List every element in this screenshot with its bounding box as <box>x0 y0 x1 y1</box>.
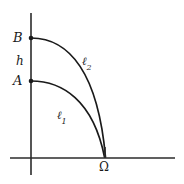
curve-l2 <box>31 38 106 157</box>
label-segment-h: h <box>16 55 24 67</box>
label-point-b: B <box>13 31 23 44</box>
label-curve-l1: ℓ1 <box>57 110 67 124</box>
figure-canvas <box>0 0 184 184</box>
label-point-omega: Ω <box>99 161 109 173</box>
label-curve-l2: ℓ2 <box>82 56 92 70</box>
label-curve-l2-symbol: ℓ <box>82 55 87 68</box>
point-A-marker <box>29 79 34 84</box>
label-point-a: A <box>13 74 22 87</box>
label-curve-l2-subscript: 2 <box>87 63 92 72</box>
geometry-figure: B h A ℓ2 ℓ1 Ω <box>0 0 184 184</box>
label-curve-l1-subscript: 1 <box>62 117 67 126</box>
label-curve-l1-symbol: ℓ <box>57 109 62 122</box>
point-B-marker <box>29 36 34 41</box>
